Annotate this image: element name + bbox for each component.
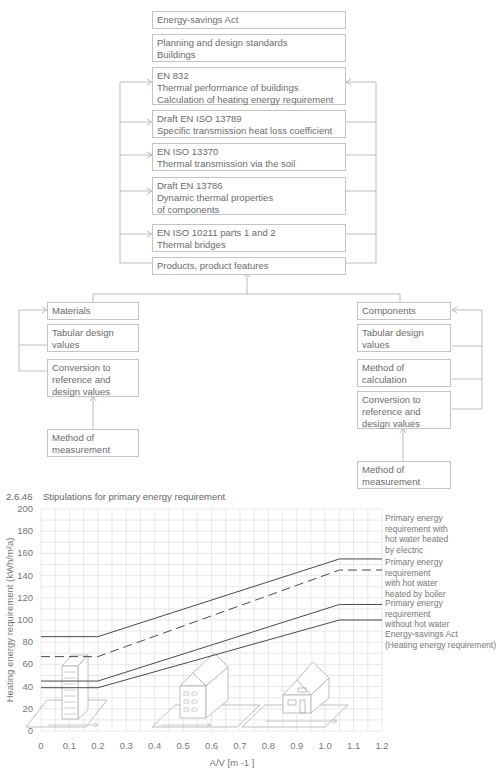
x-tick-label: 0.7 (225, 740, 255, 751)
legend-no-hot-water: Primary energy requirement without hot w… (385, 598, 449, 630)
legend-electric: Primary energy requirement with hot wate… (385, 513, 448, 555)
y-tick-label: 0 (0, 725, 33, 736)
x-tick-label: 0 (26, 740, 56, 751)
x-tick-label: 1.1 (339, 740, 369, 751)
y-tick-label: 60 (0, 658, 33, 669)
y-tick-label: 140 (0, 570, 33, 581)
x-tick-label: 0.2 (83, 740, 113, 751)
x-tick-label: 0.4 (140, 740, 170, 751)
y-tick-label: 100 (0, 614, 33, 625)
y-tick-label: 80 (0, 636, 33, 647)
x-tick-label: 1.0 (310, 740, 340, 751)
y-tick-label: 20 (0, 703, 33, 714)
y-tick-label: 120 (0, 592, 33, 603)
x-tick-label: 0.5 (168, 740, 198, 751)
y-tick-label: 200 (0, 503, 33, 514)
x-tick-label: 0.9 (282, 740, 312, 751)
y-tick-label: 180 (0, 525, 33, 536)
apartment-block-icon (62, 655, 88, 719)
y-tick-label: 160 (0, 547, 33, 558)
legend-boiler: Primary energy requirement with hot wate… (385, 557, 446, 599)
x-tick-label: 0.8 (253, 740, 283, 751)
x-tick-label: 1.2 (367, 740, 397, 751)
x-tick-label: 0.1 (54, 740, 84, 751)
x-tick-label: 0.3 (111, 740, 141, 751)
legend-energy-savings-act: Energy-savings Act (Heating energy requi… (385, 629, 496, 650)
y-tick-label: 40 (0, 681, 33, 692)
energy-chart: Heating energy requirement (kWh/m²a) A/V… (0, 0, 500, 772)
x-tick-label: 0.6 (197, 740, 227, 751)
x-axis-label: A/V [m -1 ] (210, 757, 255, 768)
